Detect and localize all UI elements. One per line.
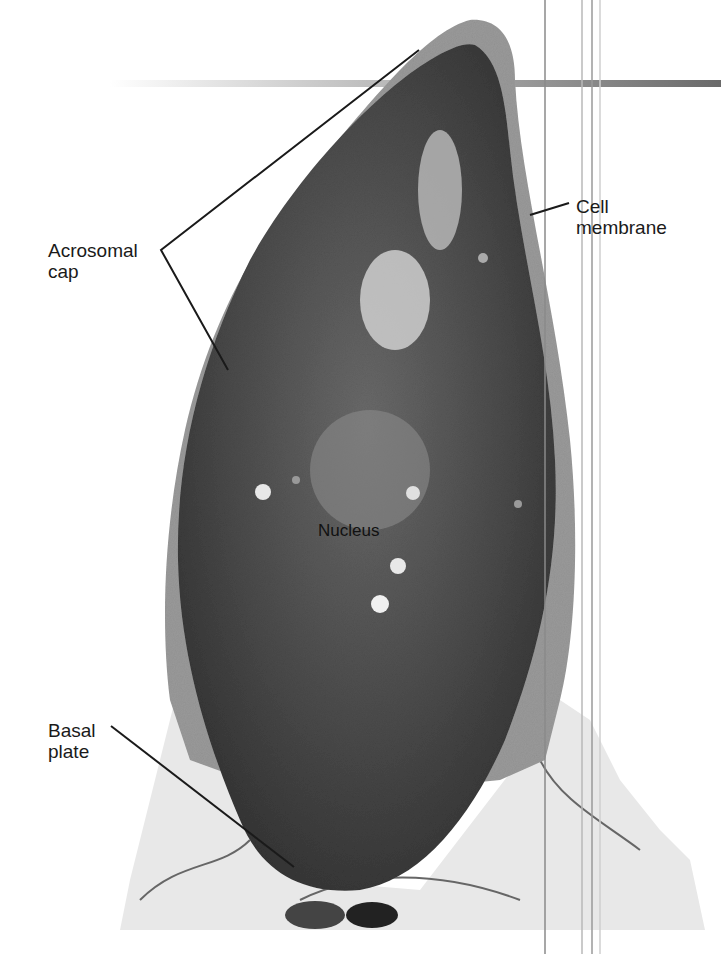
cell-membrane-leader bbox=[530, 203, 569, 215]
cell-membrane-label: Cell membrane bbox=[576, 196, 667, 238]
basal-plate-label: Basal plate bbox=[48, 720, 96, 762]
micrograph-image bbox=[0, 0, 721, 954]
micrograph-figure: Acrosomal cap Cell membrane Nucleus Basa… bbox=[0, 0, 721, 954]
acrosomal-cap-label: Acrosomal cap bbox=[48, 240, 138, 282]
nucleus-label: Nucleus bbox=[318, 520, 379, 541]
